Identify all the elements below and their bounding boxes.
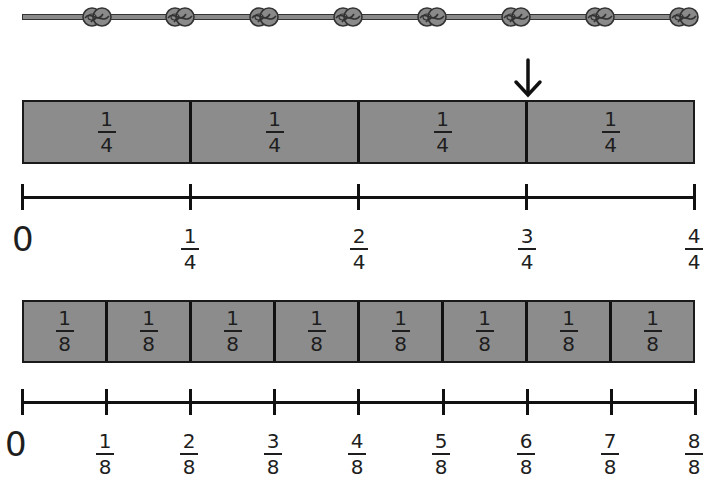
- denominator: 8: [267, 457, 280, 478]
- denominator: 8: [183, 457, 196, 478]
- fraction: 18: [476, 308, 494, 355]
- tick-label: 48: [348, 431, 366, 478]
- tick-label: 58: [432, 431, 450, 478]
- fraction: 18: [308, 308, 326, 355]
- fraction: 18: [56, 308, 74, 355]
- tick-label: 1 4: [181, 226, 199, 273]
- denominator: 4: [100, 135, 113, 156]
- fraction-diagram: 1 4 1 4 1 4 1 4: [0, 0, 708, 504]
- fraction: 18: [224, 308, 242, 355]
- numerator: 2: [182, 431, 197, 452]
- numerator: 7: [603, 431, 618, 452]
- fraction: 1 4: [602, 109, 620, 156]
- eighth-segment: 18: [276, 302, 360, 361]
- numerator: 6: [519, 431, 534, 452]
- denominator: 8: [688, 457, 701, 478]
- numerator: 3: [266, 431, 281, 452]
- tick-mark: [21, 184, 24, 210]
- down-arrow-icon: [513, 58, 543, 98]
- tick-mark: [273, 389, 276, 415]
- denominator: 4: [184, 252, 197, 273]
- eighth-segment: 18: [192, 302, 276, 361]
- zero-label: 0: [12, 222, 34, 256]
- numerator: 5: [434, 431, 449, 452]
- numerator: 2: [352, 226, 367, 247]
- knot-icon: [500, 6, 532, 28]
- tick-mark: [357, 184, 360, 210]
- tick-label: 68: [517, 431, 535, 478]
- tick-label: 18: [96, 431, 114, 478]
- denominator: 8: [142, 334, 155, 355]
- numerator: 3: [520, 226, 535, 247]
- tick-label: 78: [601, 431, 619, 478]
- fraction: 1 4: [98, 109, 116, 156]
- numerator: 1: [98, 431, 113, 452]
- tick-mark: [189, 184, 192, 210]
- quarter-segment: 1 4: [528, 102, 693, 162]
- tick-mark: [693, 184, 696, 210]
- knot-icon: [584, 6, 616, 28]
- fraction: 1 4: [266, 109, 284, 156]
- quarter-segment: 1 4: [192, 102, 360, 162]
- denominator: 8: [58, 334, 71, 355]
- knot-icon: [164, 6, 196, 28]
- quarter-segment: 1 4: [360, 102, 528, 162]
- tick-mark: [357, 389, 360, 415]
- quarters-fraction-bar: 1 4 1 4 1 4 1 4: [22, 100, 695, 164]
- numerator: 4: [687, 226, 702, 247]
- numerator: 8: [687, 431, 702, 452]
- denominator: 4: [436, 135, 449, 156]
- quarter-segment: 1 4: [24, 102, 192, 162]
- numerator: 1: [477, 308, 492, 329]
- tick-mark: [21, 389, 24, 415]
- knot-icon: [416, 6, 448, 28]
- denominator: 4: [521, 252, 534, 273]
- eighth-segment: 18: [444, 302, 528, 361]
- denominator: 8: [604, 457, 617, 478]
- zero-label: 0: [5, 427, 27, 461]
- denominator: 8: [99, 457, 112, 478]
- denominator: 4: [353, 252, 366, 273]
- eighth-segment: 18: [360, 302, 444, 361]
- tick-label: 3 4: [518, 226, 536, 273]
- denominator: 8: [646, 334, 659, 355]
- fraction: 18: [140, 308, 158, 355]
- denominator: 8: [520, 457, 533, 478]
- numerator: 1: [183, 226, 198, 247]
- tick-mark: [189, 389, 192, 415]
- denominator: 4: [688, 252, 701, 273]
- knot-icon: [332, 6, 364, 28]
- numerator: 4: [350, 431, 365, 452]
- numerator: 1: [309, 308, 324, 329]
- numerator: 1: [57, 308, 72, 329]
- eighth-segment: 18: [528, 302, 612, 361]
- knot-icon: [668, 6, 700, 28]
- fraction: 18: [560, 308, 578, 355]
- tick-mark: [525, 184, 528, 210]
- eighth-segment: 18: [612, 302, 693, 361]
- tick-label: 28: [180, 431, 198, 478]
- eighth-segment: 18: [108, 302, 192, 361]
- numerator: 1: [141, 308, 156, 329]
- denominator: 8: [394, 334, 407, 355]
- tick-mark: [105, 389, 108, 415]
- denominator: 8: [226, 334, 239, 355]
- denominator: 4: [268, 135, 281, 156]
- numerator: 1: [561, 308, 576, 329]
- eighths-fraction-bar: 18 18 18 18 18 18 18 18: [22, 300, 695, 363]
- tick-mark: [610, 389, 613, 415]
- tick-mark: [694, 389, 697, 415]
- numerator: 1: [645, 308, 660, 329]
- tick-label: 38: [264, 431, 282, 478]
- denominator: 8: [310, 334, 323, 355]
- denominator: 8: [478, 334, 491, 355]
- tick-label: 88: [685, 431, 703, 478]
- tick-label: 4 4: [685, 226, 703, 273]
- tick-label: 2 4: [350, 226, 368, 273]
- eighth-segment: 18: [24, 302, 108, 361]
- knot-icon: [248, 6, 280, 28]
- numerator: 1: [99, 109, 114, 130]
- denominator: 4: [604, 135, 617, 156]
- numerator: 1: [603, 109, 618, 130]
- tick-mark: [526, 389, 529, 415]
